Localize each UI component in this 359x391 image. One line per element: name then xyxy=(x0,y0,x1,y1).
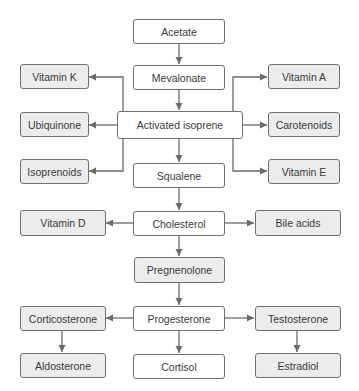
node-corticosterone: Corticosterone xyxy=(20,306,106,331)
node-squalene: Squalene xyxy=(133,163,225,188)
node-vitamin-d: Vitamin D xyxy=(20,210,106,236)
arrow-isoprene-isoprenoids xyxy=(89,139,123,171)
node-vitamin-e: Vitamin E xyxy=(268,159,340,184)
arrow-isoprene-vitamin-k xyxy=(89,77,123,111)
node-mevalonate: Mevalonate xyxy=(133,65,225,90)
node-progesterone: Progesterone xyxy=(133,306,225,331)
connector-lines xyxy=(0,0,359,391)
arrow-isoprene-vitamin-e xyxy=(233,139,267,171)
node-estradiol: Estradiol xyxy=(255,353,341,378)
node-bile-acids: Bile acids xyxy=(255,210,341,236)
node-carotenoids: Carotenoids xyxy=(268,112,340,137)
node-vitamin-a: Vitamin A xyxy=(268,64,340,89)
biosynthesis-flow-diagram: Acetate Mevalonate Activated isoprene Sq… xyxy=(0,0,359,391)
node-aldosterone: Aldosterone xyxy=(20,353,106,378)
node-pregnenolone: Pregnenolone xyxy=(134,257,225,283)
arrow-isoprene-vitamin-a xyxy=(233,77,267,111)
node-vitamin-k: Vitamin K xyxy=(20,64,89,89)
node-cortisol: Cortisol xyxy=(133,354,225,379)
node-testosterone: Testosterone xyxy=(255,306,341,331)
node-cholesterol: Cholesterol xyxy=(133,211,225,236)
node-acetate: Acetate xyxy=(133,19,225,44)
node-activated-isoprene: Activated isoprene xyxy=(117,111,243,139)
node-ubiquinone: Ubiquinone xyxy=(20,112,89,137)
node-isoprenoids: Isoprenoids xyxy=(20,159,89,184)
